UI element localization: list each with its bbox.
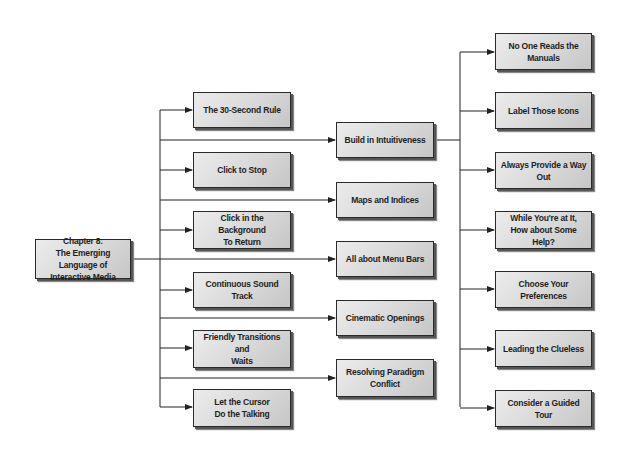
node-always-provide-way-out: Always Provide a Way Out — [495, 152, 592, 189]
root-node-chapter-8: Chapter 8: The Emerging Language of Inte… — [35, 239, 131, 279]
node-guided-tour: Consider a Guided Tour — [495, 390, 592, 427]
node-choose-preferences: Choose Your Preferences — [495, 271, 592, 308]
node-click-to-stop: Click to Stop — [193, 152, 291, 188]
node-menu-bars: All about Menu Bars — [336, 241, 434, 277]
node-let-the-cursor: Let the Cursor Do the Talking — [193, 389, 291, 427]
node-click-in-background: Click in the Background To Return — [193, 211, 291, 249]
node-friendly-transitions: Friendly Transitions and Waits — [193, 330, 291, 368]
node-no-one-reads-manuals: No One Reads the Manuals — [495, 33, 592, 70]
node-resolving-paradigm-conflict: Resolving Paradigm Conflict — [336, 359, 434, 397]
node-30-second-rule: The 30-Second Rule — [193, 92, 291, 128]
chapter-8-concept-tree: Chapter 8: The Emerging Language of Inte… — [0, 0, 619, 456]
node-continuous-sound-track: Continuous Sound Track — [193, 272, 291, 308]
node-label-those-icons: Label Those Icons — [495, 92, 592, 129]
node-leading-the-clueless: Leading the Clueless — [495, 330, 592, 367]
node-some-help: While You're at It, How about Some Help? — [495, 211, 592, 249]
node-cinematic-openings: Cinematic Openings — [336, 300, 434, 336]
node-maps-and-indices: Maps and Indices — [336, 182, 434, 218]
node-build-in-intuitiveness: Build in Intuitiveness — [336, 122, 434, 158]
